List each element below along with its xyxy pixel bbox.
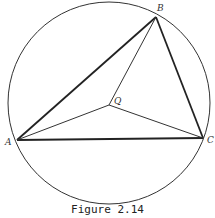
label-b: B — [156, 3, 164, 13]
label-c: C — [207, 135, 214, 145]
circumcircle — [8, 2, 210, 204]
figure-caption: Figure 2.14 — [0, 203, 215, 216]
label-q: Q — [114, 96, 122, 106]
segment-qb — [109, 17, 156, 105]
label-a: A — [4, 137, 12, 147]
segment-ab — [17, 17, 156, 140]
segment-ca — [17, 138, 203, 140]
segment-bc — [156, 17, 203, 138]
segment-qc — [109, 105, 203, 138]
segment-qa — [17, 105, 109, 140]
figure-diagram: A B C Q — [0, 0, 215, 218]
